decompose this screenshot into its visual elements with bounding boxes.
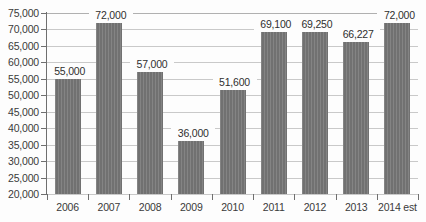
y-axis-tick-label: 65,000 xyxy=(1,40,39,52)
x-axis-tick xyxy=(336,194,337,200)
y-axis-tick-label: 25,000 xyxy=(1,172,39,184)
gridline xyxy=(47,194,418,195)
bar-value-label: 72,000 xyxy=(89,9,133,21)
x-axis-tick xyxy=(47,194,48,200)
y-axis-tick-label: 55,000 xyxy=(1,73,39,85)
bar xyxy=(384,23,410,194)
y-axis-tick-label: 75,000 xyxy=(1,7,39,19)
bar-value-label: 66,227 xyxy=(336,28,380,40)
y-axis-labels: 75,00070,00065,00060,00055,00050,00045,0… xyxy=(0,0,39,222)
y-axis-tick-label: 30,000 xyxy=(1,155,39,167)
bar xyxy=(220,90,246,194)
bar xyxy=(302,32,328,194)
bar xyxy=(343,42,369,194)
x-axis-tick xyxy=(253,194,254,200)
x-axis-tick xyxy=(377,194,378,200)
y-axis-tick-label: 45,000 xyxy=(1,106,39,118)
bar xyxy=(261,32,287,194)
x-axis-tick xyxy=(129,194,130,200)
x-axis-tick xyxy=(212,194,213,200)
y-axis-tick-label: 60,000 xyxy=(1,56,39,68)
y-axis-tick-label: 20,000 xyxy=(1,188,39,200)
x-axis-tick xyxy=(294,194,295,200)
x-axis-tick xyxy=(418,194,419,200)
bar-value-label: 36,000 xyxy=(171,127,215,139)
bar-chart: 75,00070,00065,00060,00055,00050,00045,0… xyxy=(0,0,426,222)
bar-value-label: 51,600 xyxy=(213,76,257,88)
y-axis-tick-label: 50,000 xyxy=(1,89,39,101)
x-axis-tick xyxy=(88,194,89,200)
bar xyxy=(178,141,204,194)
plot-area xyxy=(47,13,418,194)
bar-value-label: 57,000 xyxy=(130,58,174,70)
bar-value-label: 72,000 xyxy=(377,9,421,21)
y-axis-tick-label: 35,000 xyxy=(1,139,39,151)
bar xyxy=(96,23,122,194)
bar-value-label: 55,000 xyxy=(48,65,92,77)
bar-value-label: 69,100 xyxy=(254,18,298,30)
y-axis-tick-label: 70,000 xyxy=(1,23,39,35)
y-axis-tick-label: 40,000 xyxy=(1,122,39,134)
bar-value-label: 69,250 xyxy=(295,18,339,30)
bar xyxy=(55,79,81,194)
x-axis-tick xyxy=(171,194,172,200)
bar xyxy=(137,72,163,194)
x-axis-tick-label: 2014 est xyxy=(372,201,422,213)
